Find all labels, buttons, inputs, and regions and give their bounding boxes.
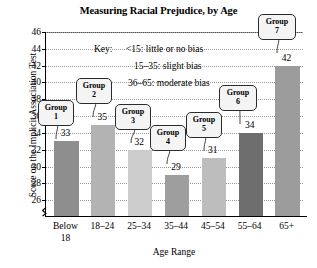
callout-tail	[76, 102, 112, 120]
y-tick-mark	[42, 167, 46, 168]
x-axis-title: Age Range	[45, 247, 303, 257]
y-tick-label: 46	[32, 27, 42, 37]
key-label: Key:	[94, 44, 112, 54]
bar[interactable]	[202, 158, 226, 217]
y-tick-label: 32	[32, 145, 42, 155]
x-tick-label: 25–34	[127, 221, 151, 233]
x-tick-label: Below 18	[53, 221, 78, 244]
callout-tail	[219, 109, 257, 127]
bar[interactable]	[275, 66, 299, 217]
x-tick-label: 18–24	[90, 221, 114, 233]
x-axis-line	[45, 216, 307, 217]
group-callout[interactable]: Group 7	[258, 14, 296, 40]
y-tick-mark	[42, 150, 46, 151]
key-line-2: 15–35: slight bias	[134, 61, 202, 71]
key-line-3: 36–65: moderate bias	[128, 78, 210, 88]
bar[interactable]	[91, 125, 115, 218]
y-tick-label: 44	[32, 44, 42, 54]
bar[interactable]	[128, 150, 152, 217]
group-callout[interactable]: Group 2	[76, 78, 112, 104]
callout-tail	[115, 128, 151, 146]
bar-chart: Measuring Racial Prejudice, by Age Score…	[0, 0, 317, 268]
callout-tail	[258, 38, 296, 56]
y-tick-label: 26	[32, 195, 42, 205]
x-tick-label: 45–54	[201, 221, 225, 233]
x-tick-label: 65+	[279, 221, 294, 233]
callout-tail	[150, 149, 186, 167]
y-tick-label: 28	[32, 178, 42, 188]
group-callout[interactable]: Group 6	[219, 85, 257, 111]
y-tick-mark	[42, 183, 46, 184]
y-tick-label: 42	[32, 61, 42, 71]
key-line-1: <15: little or no bias	[126, 44, 203, 54]
bar[interactable]	[239, 133, 263, 217]
y-tick-mark	[42, 32, 46, 33]
group-callout[interactable]: Group 4	[150, 125, 186, 151]
group-callout[interactable]: Group 3	[115, 104, 151, 130]
group-callout[interactable]: Group 1	[38, 100, 74, 126]
x-tick-label: 35–44	[164, 221, 188, 233]
y-tick-label: 30	[32, 162, 42, 172]
y-tick-label: 40	[32, 77, 42, 87]
callout-tail	[186, 136, 222, 154]
callout-tail	[38, 124, 74, 142]
y-tick-mark	[42, 66, 46, 67]
x-tick-label: 55–64	[238, 221, 262, 233]
bar[interactable]	[165, 175, 189, 217]
y-tick-mark	[42, 49, 46, 50]
y-axis-title: Score on the Implicit Association Test	[28, 30, 38, 220]
y-tick-mark	[42, 82, 46, 83]
group-callout[interactable]: Group 5	[186, 112, 222, 138]
bar[interactable]	[54, 141, 78, 217]
